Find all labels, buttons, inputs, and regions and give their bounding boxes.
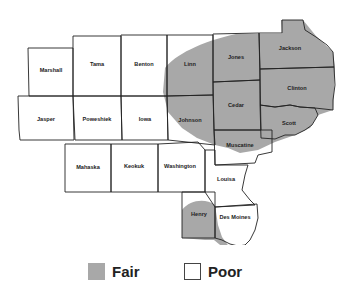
county-label-washington: Washington <box>164 163 196 169</box>
county-label-des-moines: Des Moines <box>219 214 250 220</box>
county-label-mahaska: Mahaska <box>76 164 101 170</box>
county-map: Marshall Tama Benton Linn Jones Jackson … <box>0 0 353 245</box>
fair-region-shading <box>163 20 335 153</box>
county-label-marshall: Marshall <box>40 67 63 73</box>
county-label-clinton: Clinton <box>287 85 307 91</box>
county-label-linn: Linn <box>184 61 196 67</box>
county-label-iowa: Iowa <box>139 116 152 122</box>
county-label-benton: Benton <box>134 61 154 67</box>
county-label-cedar: Cedar <box>228 102 245 108</box>
county-label-jones: Jones <box>228 54 244 60</box>
legend-poor: Poor <box>184 263 242 280</box>
county-label-louisa: Louisa <box>217 176 236 182</box>
county-label-johnson: Johnson <box>178 117 202 123</box>
county-label-tama: Tama <box>90 61 105 67</box>
legend-fair: Fair <box>88 263 140 280</box>
poor-swatch-icon <box>184 263 201 280</box>
county-label-henry: Henry <box>191 211 208 217</box>
legend-poor-label: Poor <box>208 263 242 280</box>
county-label-scott: Scott <box>282 120 296 126</box>
county-label-keokuk: Keokuk <box>124 163 145 169</box>
county-label-jackson: Jackson <box>279 45 302 51</box>
county-label-poweshiek: Poweshiek <box>83 116 113 122</box>
county-label-muscatine: Muscatine <box>226 142 253 148</box>
county-label-jasper: Jasper <box>37 116 56 122</box>
fair-swatch-icon <box>88 263 105 280</box>
legend-fair-label: Fair <box>112 263 140 280</box>
